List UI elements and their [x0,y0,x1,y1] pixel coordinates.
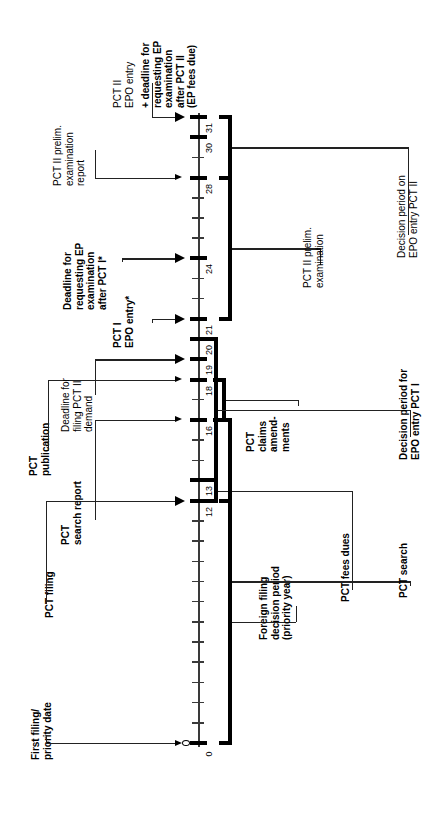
event-label-line: report [75,125,87,186]
leader-vertical-pct-ii-demand [95,359,96,395]
event-label-line: + deadline for [140,41,152,108]
axis-tick-7 [192,601,204,603]
period-label-foreign-filing-decision: Foreign filingdecision period(priority y… [258,566,293,640]
event-label-pct-i-epo-entry: PCT IEPO entry* [112,296,135,348]
leader-vertical-pct-search-report [95,420,96,520]
axis-tick-5 [192,641,204,643]
period-label-line: decision period [270,566,282,640]
leader-horizontal-pct-ii-exam-report [95,178,176,179]
event-label-line: requesting EP [74,243,86,310]
event-label-line: PCT I [112,296,124,348]
axis-tick-17 [192,399,204,401]
period-label-decision-period-epo-i: Decision period forEPO entry PCT I [398,369,421,460]
event-label-line: EPO entry* [124,296,136,348]
period-label-line: Foreign filing [258,566,270,640]
axis-tick-label-24: 24 [204,257,214,281]
period-leader-h-pct-search [232,581,410,582]
event-label-pct-ii-demand: Deadline forfiling PCT IIdemand [60,378,95,432]
bracket-arm-bottom-pct-fees-dues [205,499,214,503]
period-label-line: PCT fees dues [340,533,352,602]
leader-horizontal-pct-ii-epo-entry [152,117,176,118]
event-label-line: examination [163,41,175,108]
period-label-line: PCT [245,416,257,452]
event-label-line: search report [72,481,84,545]
arrowhead-pct-ii-epo-entry [175,112,185,122]
axis-tick-11 [192,520,204,522]
period-label-line: PCT search [398,543,410,598]
period-label-pct-claims-amendments: PCTclaimsamend-ments [245,416,291,452]
axis-tick-4 [192,661,204,663]
origin-marker [182,740,190,746]
event-label-line: PCT II [112,62,124,108]
period-label-decision-period-epo-ii: Decision period onEPO entry PCT II [396,175,419,258]
event-label-first-filing: First filing/priority date [30,702,53,760]
event-label-line: Deadline for [62,243,74,310]
leader-vertical-first-filing [46,735,47,743]
arrowhead-pct-filing [175,496,185,506]
arrowhead-ep-exam-deadline-i [175,253,185,263]
event-label-line: PCT [28,423,40,476]
event-label-line: examination [85,243,97,310]
axis-tick-label-28: 28 [204,177,214,201]
event-label-pct-ii-exam-report: PCT II prelim.examinationreport [52,125,87,186]
period-leader-v-pct-claims-amendments [298,400,299,406]
bracket-arm-bottom-decision-period-epo-i [205,478,214,482]
period-label-pct-fees-dues: PCT fees dues [340,533,352,602]
axis-tick-29 [192,157,204,159]
axis-tick-2 [192,702,204,704]
axis-tick-label-16: 16 [204,419,214,443]
event-label-line: examination [64,125,76,186]
axis-tick-10 [192,540,204,542]
leader-horizontal-pct-ii-demand [95,359,176,360]
event-label-pct-ii-epo-entry: PCT IIEPO entry [112,62,135,108]
axis-tick-label-0: 0 [204,742,214,766]
axis-tick-9 [192,561,204,563]
event-label-line: priority date [42,702,54,760]
bracket-arm-bottom-decision-period-epo-ii [219,176,228,180]
timeline-axis [198,113,200,747]
arrowhead-pct-ii-demand [175,354,185,364]
period-label-line: (priority year) [281,566,293,640]
event-label-line: EPO entry [124,62,136,108]
event-label-line: Deadline for [60,378,72,432]
axis-tick-23 [192,278,204,280]
leader-vertical-pct-filing [46,501,47,605]
arrowhead-pct-ii-exam-report [175,174,182,180]
period-label-line: Decision period for [398,369,410,460]
axis-tick-14 [192,460,204,462]
timeline-diagram: 01213161819202124283031First filing/prio… [0,0,432,814]
arrowhead-pct-search-report [175,416,182,422]
period-leader-v-foreign-filing-decision [296,606,297,622]
axis-tick-1 [192,722,204,724]
bracket-arm-bottom-pct-search [219,741,228,745]
leader-horizontal-pct-search-report [95,420,176,421]
period-label-line: amend- [268,416,280,452]
event-label-line: filing PCT II [72,378,84,432]
period-label-line: EPO entry PCT I [410,369,422,460]
event-label-line: PCT [60,481,72,545]
axis-tick-6 [192,621,204,623]
leader-horizontal-ep-exam-deadline-i [122,258,176,259]
axis-tick-3 [192,682,204,684]
leader-vertical-pct-publication [48,380,49,451]
period-label-line: Decision period on [396,175,408,258]
period-label-pct-ii-prelim-exam: PCT II prelim.examination [302,227,325,288]
event-label-ep-exam-deadline-ii: + deadline forrequesting EPexaminationaf… [140,41,198,108]
period-leader-h-pct-claims-amendments [226,400,298,401]
period-label-pct-search: PCT search [398,543,410,598]
bracket-arm-bottom-pct-ii-prelim-exam [219,317,228,321]
period-leader-h-decision-period-epo-i [218,410,410,411]
event-label-line: (EP fees due) [186,41,198,108]
event-label-line: PCT II prelim. [52,125,64,186]
axis-tick-label-18: 18 [204,379,214,403]
axis-tick-8 [192,581,204,583]
axis-tick-15 [192,439,204,441]
axis-tick-27 [192,197,204,199]
period-leader-v-pct-fees-dues [352,491,353,591]
leader-vertical-pct-ii-exam-report [95,150,96,178]
event-label-line: after PCT I* [97,243,109,310]
arrowhead-pct-publication [175,376,182,382]
leader-horizontal-first-filing [46,743,176,744]
period-label-line: PCT II prelim. [302,227,314,288]
axis-tick-25 [192,237,204,239]
